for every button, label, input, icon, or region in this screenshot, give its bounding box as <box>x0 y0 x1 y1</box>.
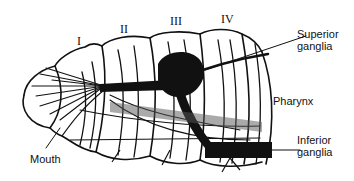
label-superior: Superior <box>297 28 339 40</box>
superior-ganglion <box>158 52 204 97</box>
segment-label-ii: II <box>120 22 128 37</box>
label-pharynx: Pharynx <box>273 95 313 107</box>
label-superior-ganglia: ganglia <box>297 40 332 52</box>
segment-label-iv: IV <box>221 12 234 27</box>
segment-label-i: I <box>77 34 81 49</box>
label-inferior: Inferior <box>297 134 331 146</box>
inferior-ganglion <box>205 142 272 158</box>
label-inferior-ganglia: ganglia <box>297 146 332 158</box>
label-mouth: Mouth <box>30 153 61 165</box>
segment-label-iii: III <box>170 14 182 29</box>
